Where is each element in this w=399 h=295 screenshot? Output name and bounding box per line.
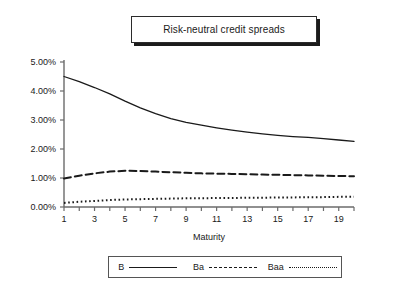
- chart-series-group: [64, 77, 354, 203]
- x-axis-tick-labels: 135791113151719: [61, 214, 343, 224]
- y-tick-label: 4.00%: [30, 86, 56, 96]
- y-tick-label: 1.00%: [30, 173, 56, 183]
- x-axis-group: 135791113151719: [61, 207, 354, 224]
- x-axis-title: Maturity: [193, 232, 226, 242]
- x-tick-label: 17: [303, 214, 313, 224]
- x-tick-label: 9: [184, 214, 189, 224]
- x-tick-label: 13: [242, 214, 252, 224]
- y-axis-group: 0.00%1.00%2.00%3.00%4.00%5.00%: [30, 57, 64, 212]
- y-tick-label: 0.00%: [30, 202, 56, 212]
- legend-swatch-solid-icon: [129, 263, 177, 271]
- legend-item-baa: Baa: [264, 262, 341, 272]
- x-tick-label: 7: [153, 214, 158, 224]
- x-tick-label: 1: [61, 214, 66, 224]
- legend-swatch-dotted-icon: [289, 263, 337, 271]
- legend-swatch-dashed-icon: [209, 263, 257, 271]
- chart-plot-area: 0.00%1.00%2.00%3.00%4.00%5.00% 135791113…: [0, 0, 399, 295]
- chart-legend: B Ba Baa: [108, 256, 342, 278]
- x-tick-label: 15: [273, 214, 283, 224]
- x-tick-label: 19: [334, 214, 344, 224]
- legend-label-ba: Ba: [193, 262, 204, 272]
- x-tick-label: 3: [92, 214, 97, 224]
- y-tick-label: 3.00%: [30, 115, 56, 125]
- y-tick-label: 5.00%: [30, 57, 56, 67]
- y-tick-label: 2.00%: [30, 144, 56, 154]
- series-line-baa: [64, 197, 354, 203]
- x-tick-label: 5: [123, 214, 128, 224]
- chart-svg: 0.00%1.00%2.00%3.00%4.00%5.00% 135791113…: [0, 0, 399, 295]
- series-line-b: [64, 77, 354, 142]
- series-line-ba: [64, 171, 354, 179]
- legend-label-baa: Baa: [268, 262, 284, 272]
- legend-item-b: B: [109, 262, 186, 272]
- legend-label-b: B: [118, 262, 124, 272]
- legend-item-ba: Ba: [186, 262, 263, 272]
- x-tick-label: 11: [212, 214, 221, 224]
- y-axis-tick-labels: 0.00%1.00%2.00%3.00%4.00%5.00%: [30, 57, 56, 212]
